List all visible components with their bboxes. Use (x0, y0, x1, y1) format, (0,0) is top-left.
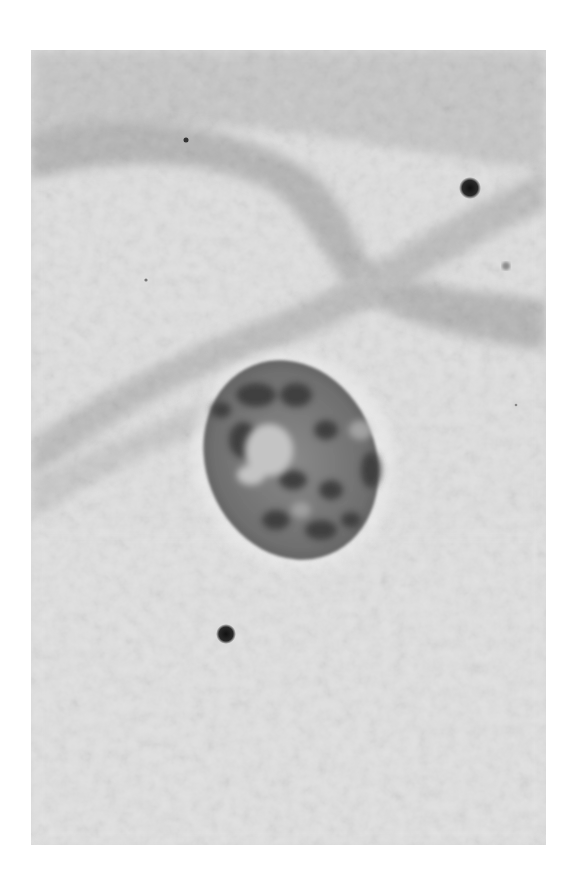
micrograph-graphic (31, 50, 546, 845)
micrograph-photo (31, 50, 546, 845)
particle-dot (459, 177, 481, 199)
particle-dot (216, 624, 236, 644)
